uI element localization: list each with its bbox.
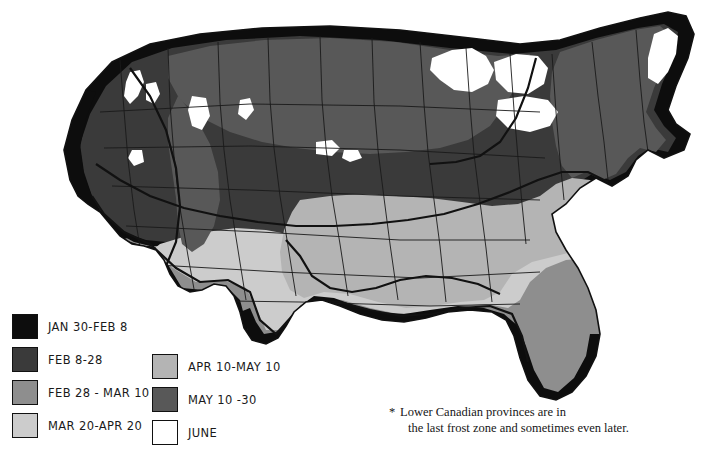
legend-label-feb8-28: FEB 8-28 (48, 353, 103, 367)
legend-label-apr10-may10: APR 10-MAY 10 (188, 360, 281, 374)
footnote-asterisk: * (389, 404, 395, 420)
footnote-line-2: the last frost zone and sometimes even l… (389, 420, 699, 436)
footnote-line-1: Lower Canadian provinces are in (389, 404, 699, 420)
swatch-jan30-feb8 (12, 314, 38, 339)
swatch-may10-30 (152, 387, 178, 412)
legend-item-feb8-28[interactable]: FEB 8-28 (12, 344, 150, 375)
legend-label-feb28-mar10: FEB 28 - MAR 10 (48, 386, 150, 400)
legend-item-mar20-apr20[interactable]: MAR 20-APR 20 (12, 410, 150, 441)
swatch-feb8-28 (12, 347, 38, 372)
legend-column-right: APR 10-MAY 10 MAY 10 -30 JUNE (152, 351, 281, 450)
legend-label-jan30-feb8: JAN 30-FEB 8 (48, 320, 128, 334)
legend-label-may10-30: MAY 10 -30 (188, 393, 257, 407)
legend: JAN 30-FEB 8 FEB 8-28 FEB 28 - MAR 10 MA… (12, 311, 312, 443)
legend-item-june[interactable]: JUNE (152, 417, 281, 448)
legend-item-may10-30[interactable]: MAY 10 -30 (152, 384, 281, 415)
legend-column-left: JAN 30-FEB 8 FEB 8-28 FEB 28 - MAR 10 MA… (12, 311, 150, 443)
frost-date-map-page: JAN 30-FEB 8 FEB 8-28 FEB 28 - MAR 10 MA… (0, 0, 712, 451)
swatch-feb28-mar10 (12, 380, 38, 405)
swatch-june (152, 420, 178, 445)
legend-item-feb28-mar10[interactable]: FEB 28 - MAR 10 (12, 377, 150, 408)
legend-label-june: JUNE (188, 426, 217, 440)
legend-item-jan30-feb8[interactable]: JAN 30-FEB 8 (12, 311, 150, 342)
legend-item-apr10-may10[interactable]: APR 10-MAY 10 (152, 351, 281, 382)
legend-label-mar20-apr20: MAR 20-APR 20 (48, 419, 142, 433)
swatch-mar20-apr20 (12, 413, 38, 438)
swatch-apr10-may10 (152, 354, 178, 379)
footnote: * Lower Canadian provinces are in the la… (389, 404, 699, 436)
